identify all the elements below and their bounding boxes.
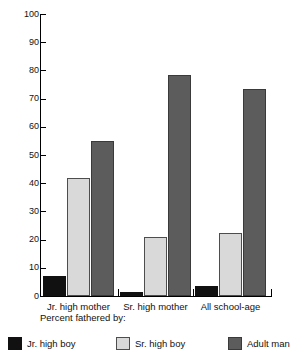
bar-sr-1 bbox=[67, 178, 90, 296]
bar-jr-2 bbox=[120, 292, 143, 296]
legend-item-sr[interactable]: Sr. high boy bbox=[116, 336, 185, 350]
y-axis-tick-label: 70 bbox=[9, 94, 39, 103]
y-axis-tick bbox=[41, 183, 46, 184]
y-axis-tick bbox=[41, 155, 46, 156]
legend-swatch-icon bbox=[116, 337, 130, 350]
legend-item-jr[interactable]: Jr. high boy bbox=[8, 336, 76, 350]
x-axis-group-tick bbox=[271, 289, 272, 296]
bar-chart: 1009080706050403020100 Jr. high motherSr… bbox=[0, 0, 292, 360]
bar-sr-2 bbox=[144, 237, 167, 296]
y-axis-tick bbox=[41, 42, 46, 43]
legend-label: Adult man bbox=[247, 338, 290, 349]
y-axis-tick-label: 0 bbox=[9, 292, 39, 301]
y-axis-tick-label: 100 bbox=[9, 10, 39, 19]
y-axis-tick-label: 80 bbox=[9, 66, 39, 75]
y-axis-tick-label: 60 bbox=[9, 122, 39, 131]
bar-jr-3 bbox=[195, 286, 218, 296]
y-axis-tick bbox=[41, 211, 46, 212]
x-axis-group-tick bbox=[193, 289, 194, 296]
chart-caption: Percent fathered by: bbox=[40, 312, 126, 323]
chart-legend: Jr. high boySr. high boyAdult man bbox=[8, 336, 288, 352]
legend-label: Sr. high boy bbox=[135, 338, 185, 349]
x-axis-group-tick bbox=[118, 289, 119, 296]
bar-adult-2 bbox=[168, 75, 191, 296]
y-axis-tick-label: 40 bbox=[9, 179, 39, 188]
y-axis-tick-label: 20 bbox=[9, 235, 39, 244]
bar-sr-3 bbox=[219, 233, 242, 296]
legend-label: Jr. high boy bbox=[27, 338, 76, 349]
y-axis-tick bbox=[41, 14, 46, 15]
y-axis-tick bbox=[41, 70, 46, 71]
y-axis-tick bbox=[41, 127, 46, 128]
x-axis-line bbox=[40, 296, 272, 297]
y-axis-tick bbox=[41, 296, 46, 297]
bar-adult-1 bbox=[91, 141, 114, 296]
legend-swatch-icon bbox=[8, 337, 22, 350]
y-axis-tick bbox=[41, 268, 46, 269]
bar-adult-3 bbox=[243, 89, 266, 296]
y-axis-tick-label: 30 bbox=[9, 207, 39, 216]
y-axis-tick-label: 10 bbox=[9, 263, 39, 272]
y-axis-tick bbox=[41, 240, 46, 241]
y-axis-tick-label: 90 bbox=[9, 38, 39, 47]
legend-swatch-icon bbox=[228, 337, 242, 350]
x-axis-label-3: All school-age bbox=[171, 301, 291, 312]
bar-jr-1 bbox=[43, 276, 66, 296]
legend-item-adult[interactable]: Adult man bbox=[228, 336, 290, 350]
y-axis-tick-label: 50 bbox=[9, 151, 39, 160]
y-axis-tick bbox=[41, 99, 46, 100]
